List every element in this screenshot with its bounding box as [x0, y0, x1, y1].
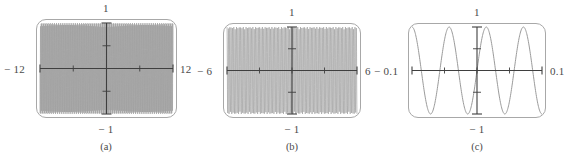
panel-caption-a: (a) — [100, 141, 112, 152]
x-right-label-c: 0.1 — [550, 66, 565, 77]
panel-caption-b: (b) — [286, 141, 298, 152]
x-right-label-b: 6 — [365, 66, 371, 77]
y-bottom-label-a: − 1 — [98, 124, 113, 135]
y-top-label-b: 1 — [289, 7, 295, 18]
panel-caption-c: (c) — [471, 141, 483, 152]
plot-curve-a — [0, 0, 190, 156]
plot-panel-a: 1 − 1 − 12 12 (a) — [0, 0, 190, 156]
x-left-label-b: − 6 — [197, 66, 212, 77]
x-left-label-c: − 0.1 — [374, 66, 398, 77]
y-bottom-label-b: − 1 — [284, 124, 299, 135]
plot-panel-c: 1 − 1 − 0.1 0.1 (c) — [382, 0, 572, 156]
x-left-label-a: − 12 — [4, 64, 25, 75]
plot-panel-b: 1 − 1 − 6 6 (b) — [190, 0, 380, 156]
y-top-label-a: 1 — [103, 3, 109, 14]
y-bottom-label-c: − 1 — [469, 124, 484, 135]
figure-three-zoom-levels: 1 − 1 − 12 12 (a) 1 − 1 − 6 6 (b) 1 − 1 … — [0, 0, 572, 156]
y-top-label-c: 1 — [474, 7, 480, 18]
